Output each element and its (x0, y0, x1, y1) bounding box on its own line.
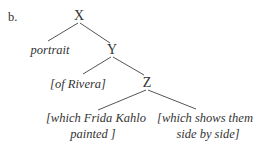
leaf-frida-line2: painted ] (69, 127, 116, 141)
leaf-portrait: portrait (30, 43, 70, 57)
edge-x-y (80, 23, 110, 43)
edge-x-portrait (48, 23, 78, 41)
node-x: X (74, 8, 84, 23)
node-z: Z (143, 75, 152, 90)
leaf-frida-line1: [which Frida Kahlo (46, 111, 146, 125)
edge-z-frida (98, 90, 146, 110)
leaf-of-rivera: [of Rivera] (50, 77, 106, 91)
edge-y-of-rivera (83, 57, 111, 74)
syntax-tree: b. X portrait Y [of Rivera] Z [which Fri… (0, 0, 261, 151)
leaf-shows-line2: side by side] (176, 127, 239, 141)
edge-y-z (113, 57, 144, 75)
item-label: b. (8, 10, 17, 24)
leaf-shows-line1: [which shows them (157, 111, 253, 125)
edge-z-shows (148, 90, 196, 109)
node-y: Y (107, 42, 117, 57)
